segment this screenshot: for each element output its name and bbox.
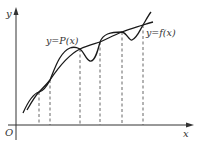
curve-P xyxy=(23,12,151,113)
origin-label: O xyxy=(5,127,13,138)
diagram: x y O y=P(x) y=f(x) xyxy=(0,0,198,158)
label-P: y=P(x) xyxy=(45,35,79,46)
label-f: y=f(x) xyxy=(145,27,176,38)
x-axis-label: x xyxy=(183,128,189,139)
y-axis-label: y xyxy=(5,8,12,19)
x-axis-arrow-icon xyxy=(186,123,194,128)
diagram-svg: x y O y=P(x) y=f(x) xyxy=(0,0,198,158)
y-axis-arrow-icon xyxy=(14,7,19,15)
